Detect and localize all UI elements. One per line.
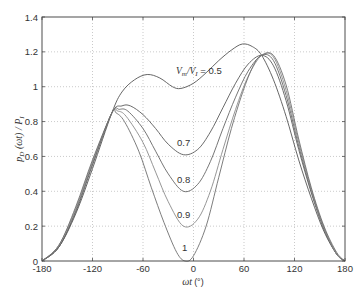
x-tick-label: -60 [136, 263, 150, 274]
power-curve-chart: -180-120-6006012018000.20.40.60.811.21.4… [0, 0, 362, 290]
y-tick-label: 0.2 [25, 221, 38, 232]
x-tick-label: -120 [83, 263, 102, 274]
y-tick-label: 0.8 [25, 116, 38, 127]
curve-label-1: 1 [182, 242, 187, 253]
x-axis-label-unit: (°) [194, 277, 204, 287]
label-value-0.5: = 0.5 [198, 65, 222, 76]
curve-label-0.8: 0.8 [177, 174, 190, 185]
y-tick-label: 1.2 [25, 46, 38, 57]
y-tick-label: 1 [33, 81, 38, 92]
x-tick-label: 180 [337, 263, 353, 274]
x-tick-label: 60 [239, 263, 250, 274]
curve-label-0.9: 0.9 [177, 209, 190, 220]
x-tick-label: 120 [287, 263, 303, 274]
y-axis-label-mid: (ωt) / P [13, 119, 25, 152]
x-axis-label-main: ωt [182, 276, 192, 287]
curve-label-0.7: 0.7 [177, 137, 190, 148]
x-tick-label: 0 [191, 263, 196, 274]
y-tick-label: 0 [33, 256, 38, 267]
y-tick-label: 0.4 [25, 186, 38, 197]
y-tick-label: 0.6 [25, 151, 38, 162]
y-tick-label: 1.4 [25, 12, 38, 23]
